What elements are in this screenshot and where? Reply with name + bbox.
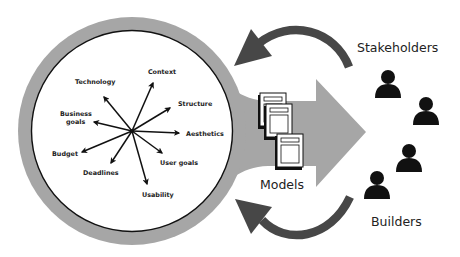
factor-label-aesthetics: Aesthetics	[186, 130, 224, 138]
factor-label-technology: Technology	[75, 78, 116, 86]
factor-label-context: Context	[148, 68, 176, 76]
hub-center	[130, 129, 134, 133]
factor-label-user-goals: User goals	[160, 159, 198, 167]
factor-label-usability: Usability	[142, 191, 175, 199]
factor-label-structure: Structure	[178, 100, 213, 108]
factor-label-deadlines: Deadlines	[83, 169, 119, 177]
person-icon	[413, 97, 439, 125]
stakeholder-feedback-arrow	[234, 29, 349, 67]
models-label: Models	[260, 177, 304, 192]
design-factors-diagram: ContextStructureAestheticsUser goalsUsab…	[0, 0, 460, 257]
builder-feedback-arrow	[235, 197, 350, 235]
builders-label: Builders	[371, 214, 422, 229]
document-icon	[275, 134, 303, 170]
people	[364, 70, 439, 199]
person-icon	[396, 144, 422, 172]
person-icon	[364, 171, 390, 199]
factor-label-budget: Budget	[52, 150, 78, 158]
stakeholders-label: Stakeholders	[357, 40, 438, 55]
person-icon	[375, 70, 401, 98]
